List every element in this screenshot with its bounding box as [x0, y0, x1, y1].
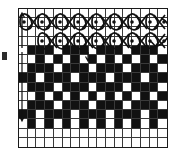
grid-cell-filled: [36, 46, 45, 55]
grid-cell-empty: [28, 138, 37, 147]
grid-cell-empty: [106, 37, 115, 46]
grid-cell-filled: [89, 73, 98, 82]
grid-cell-empty: [141, 110, 150, 119]
grid-cell-empty: [80, 27, 89, 36]
grid-cell-empty: [28, 18, 37, 27]
grid-cell-empty: [150, 55, 159, 64]
grid-cell-filled: [123, 55, 132, 64]
grid-cell-empty: [106, 73, 115, 82]
grid-cell-empty: [19, 119, 28, 128]
grid-cell-filled: [19, 110, 28, 119]
grid-cell-filled: [63, 64, 72, 73]
grid-cell-empty: [45, 18, 54, 27]
grid-cell-empty: [80, 9, 89, 18]
grid-cell-filled: [45, 73, 54, 82]
grid-cell-empty: [89, 101, 98, 110]
stitch-chart-figure: [0, 0, 181, 162]
grid-cell-empty: [106, 119, 115, 128]
grid-cell-filled: [115, 64, 124, 73]
grid-cell-empty: [19, 9, 28, 18]
grid-cell-filled: [54, 92, 63, 101]
grid-cell-empty: [89, 138, 98, 147]
grid-cell-empty: [141, 18, 150, 27]
grid-cell-filled: [45, 101, 54, 110]
grid-cell-empty: [19, 55, 28, 64]
grid-cell-empty: [158, 46, 167, 55]
grid-cell-filled: [97, 101, 106, 110]
grid-cell-empty: [150, 27, 159, 36]
grid-cell-empty: [106, 27, 115, 36]
grid-cell-empty: [141, 138, 150, 147]
grid-cell-filled: [141, 64, 150, 73]
grid-cell-filled: [45, 119, 54, 128]
grid-cell-filled: [89, 92, 98, 101]
grid-cell-empty: [63, 129, 72, 138]
grid-cell-filled: [132, 119, 141, 128]
grid-cell-empty: [158, 64, 167, 73]
grid-cell-empty: [19, 101, 28, 110]
grid-cell-filled: [36, 55, 45, 64]
chart-grid-cells: [19, 9, 167, 147]
grid-cell-filled: [150, 101, 159, 110]
grid-cell-empty: [150, 92, 159, 101]
grid-cell-empty: [115, 129, 124, 138]
grid-cell-filled: [97, 73, 106, 82]
grid-cell-filled: [106, 101, 115, 110]
grid-cell-empty: [132, 18, 141, 27]
grid-cell-filled: [141, 55, 150, 64]
grid-cell-filled: [123, 92, 132, 101]
grid-cell-filled: [28, 119, 37, 128]
grid-cell-empty: [45, 9, 54, 18]
grid-cell-empty: [19, 92, 28, 101]
grid-cell-filled: [158, 73, 167, 82]
grid-cell-empty: [115, 37, 124, 46]
grid-cell-empty: [123, 129, 132, 138]
grid-cell-empty: [123, 138, 132, 147]
grid-cell-empty: [80, 92, 89, 101]
grid-cell-filled: [19, 73, 28, 82]
grid-cell-filled: [45, 83, 54, 92]
grid-cell-empty: [71, 18, 80, 27]
grid-cell-empty: [19, 83, 28, 92]
grid-cell-empty: [71, 37, 80, 46]
grid-cell-empty: [97, 55, 106, 64]
grid-cell-empty: [28, 37, 37, 46]
grid-cell-empty: [123, 46, 132, 55]
grid-cell-empty: [158, 119, 167, 128]
grid-cell-empty: [115, 9, 124, 18]
grid-cell-filled: [132, 83, 141, 92]
grid-cell-empty: [45, 27, 54, 36]
grid-cell-empty: [115, 92, 124, 101]
grid-cell-empty: [54, 18, 63, 27]
grid-cell-empty: [132, 55, 141, 64]
grid-cell-empty: [54, 9, 63, 18]
grid-cell-empty: [28, 129, 37, 138]
grid-cell-filled: [150, 46, 159, 55]
grid-cell-empty: [63, 9, 72, 18]
grid-cell-filled: [36, 92, 45, 101]
grid-cell-filled: [97, 119, 106, 128]
grid-cell-empty: [28, 92, 37, 101]
grid-cell-empty: [36, 73, 45, 82]
grid-cell-empty: [36, 129, 45, 138]
grid-cell-empty: [141, 9, 150, 18]
grid-cell-empty: [97, 92, 106, 101]
grid-cell-filled: [123, 110, 132, 119]
grid-cell-empty: [123, 27, 132, 36]
grid-cell-empty: [54, 138, 63, 147]
grid-cell-filled: [141, 92, 150, 101]
grid-cell-empty: [36, 110, 45, 119]
grid-cell-filled: [123, 73, 132, 82]
grid-cell-empty: [97, 18, 106, 27]
grid-cell-filled: [106, 92, 115, 101]
grid-cell-filled: [132, 73, 141, 82]
grid-cell-empty: [115, 138, 124, 147]
grid-cell-filled: [132, 46, 141, 55]
grid-cell-empty: [123, 64, 132, 73]
grid-cell-filled: [71, 83, 80, 92]
grid-cell-filled: [150, 73, 159, 82]
grid-cell-empty: [54, 46, 63, 55]
grid-cell-filled: [28, 64, 37, 73]
grid-cell-empty: [36, 18, 45, 27]
grid-cell-empty: [123, 18, 132, 27]
